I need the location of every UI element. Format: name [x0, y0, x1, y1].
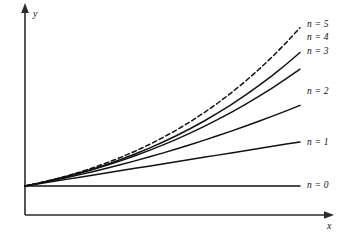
- y-axis-group: [21, 3, 29, 215]
- curve-label-n1: n = 1: [307, 138, 329, 148]
- curve-n1: [25, 142, 300, 186]
- curve-label-n3-text: n = 3: [307, 46, 329, 56]
- x-axis-arrowhead: [324, 211, 334, 219]
- plot-svg: [0, 0, 342, 233]
- curve-label-n5: n = 5: [307, 20, 329, 30]
- curve-label-n1-text: n = 1: [307, 137, 329, 147]
- y-axis-label: y: [33, 9, 37, 19]
- y-axis-arrowhead: [21, 3, 29, 13]
- curve-label-n2-text: n = 2: [307, 86, 329, 96]
- curve-label-n3: n = 3: [307, 47, 329, 57]
- curve-label-n0: n = 0: [307, 181, 329, 191]
- curve-n5: [25, 28, 300, 186]
- curve-label-n4: n = 4: [307, 33, 329, 43]
- curve-label-n5-text: n = 5: [307, 19, 329, 29]
- curve-n3: [25, 69, 300, 186]
- curves-group: [25, 28, 300, 186]
- curve-label-n0-text: n = 0: [307, 180, 329, 190]
- figure-container: y x n = 5 n = 4 n = 3 n = 2 n = 1 n = 0: [0, 0, 342, 233]
- x-axis-label: x: [327, 221, 331, 231]
- curve-n4: [25, 53, 300, 186]
- curve-label-n4-text: n = 4: [307, 32, 329, 42]
- curve-label-n2: n = 2: [307, 87, 329, 97]
- x-axis-group: [25, 211, 334, 219]
